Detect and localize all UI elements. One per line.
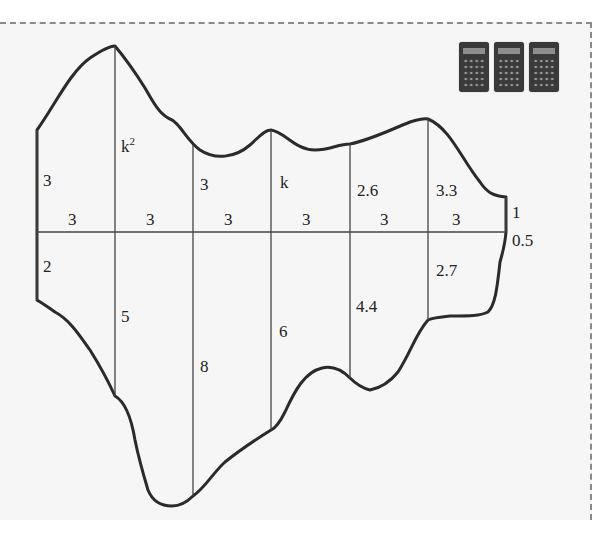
strip-width-1: 3: [146, 210, 155, 229]
lower-offset-2: 8: [200, 357, 209, 376]
upper-offset-3: k: [280, 173, 289, 192]
lower-offset-3: 6: [279, 322, 288, 341]
upper-offset-4: 2.6: [357, 181, 378, 200]
strip-width-2: 3: [224, 210, 233, 229]
lower-offset-1: 5: [121, 307, 130, 326]
calculator-toolbar: [459, 42, 559, 92]
lower-offset-0: 2: [43, 257, 52, 276]
upper-offset-6: 1: [512, 203, 521, 222]
lower-offset-4: 4.4: [356, 297, 378, 316]
upper-offset-1: k2: [121, 135, 135, 156]
strip-width-5: 3: [452, 210, 461, 229]
upper-offset-0: 3: [43, 171, 52, 190]
calculator-icon[interactable]: [494, 42, 524, 92]
upper-offset-5: 3.3: [436, 181, 457, 200]
calculator-icon[interactable]: [529, 42, 559, 92]
strip-width-4: 3: [380, 210, 389, 229]
calculator-icon[interactable]: [459, 42, 489, 92]
lower-offset-5: 2.7: [436, 261, 458, 280]
strip-width-0: 3: [68, 210, 77, 229]
strip-width-3: 3: [302, 210, 311, 229]
upper-offset-2: 3: [200, 175, 209, 194]
lower-offset-6: 0.5: [512, 231, 533, 250]
